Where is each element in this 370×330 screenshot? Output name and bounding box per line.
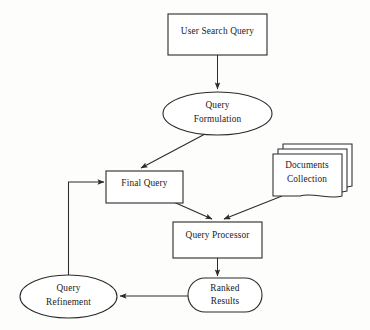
documents-collection-label-line2: Collection: [287, 174, 327, 184]
node-documents-collection[interactable]: Documents Collection: [273, 144, 352, 197]
query-formulation-label-line1: Query: [206, 100, 230, 110]
node-user-search-query[interactable]: User Search Query: [168, 14, 267, 55]
ranked-results-label-line2: Results: [211, 296, 240, 306]
user-search-query-label: User Search Query: [181, 26, 254, 36]
query-processor-label: Query Processor: [186, 230, 251, 240]
final-query-label: Final Query: [121, 178, 168, 188]
flowchart-svg: User Search Query Query Formulation Fina…: [0, 0, 370, 330]
node-ranked-results[interactable]: Ranked Results: [188, 278, 262, 312]
query-formulation-label-line2: Formulation: [194, 114, 242, 124]
query-refinement-label-line1: Query: [57, 283, 81, 293]
node-query-formulation[interactable]: Query Formulation: [163, 92, 272, 135]
node-final-query[interactable]: Final Query: [106, 171, 183, 203]
node-query-refinement[interactable]: Query Refinement: [20, 275, 117, 318]
ranked-results-label-line1: Ranked: [210, 283, 240, 293]
edge-documents-collection-to-query-processor: [224, 196, 282, 219]
edge-query-refinement-to-final-query: [69, 182, 105, 275]
documents-collection-label-line1: Documents: [285, 160, 329, 170]
edge-query-formulation-to-final-query: [141, 134, 205, 168]
query-refinement-label-line2: Refinement: [46, 297, 91, 307]
flowchart-canvas: User Search Query Query Formulation Fina…: [0, 0, 370, 330]
node-query-processor[interactable]: Query Processor: [173, 222, 262, 258]
